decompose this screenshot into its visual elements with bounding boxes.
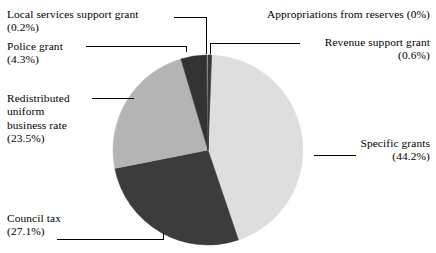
slice-label-percent: (44.2%) bbox=[360, 150, 430, 163]
slice-label-text: Council tax bbox=[7, 212, 61, 225]
slice-label-percent: (0.6%) bbox=[325, 49, 430, 62]
slice-label-local-services-support-grant: Local services support grant (0.2%) bbox=[7, 8, 139, 35]
slice-label-percent: (27.1%) bbox=[7, 225, 61, 238]
leader-line-council-tax bbox=[57, 233, 163, 239]
slice-label-text: Police grant bbox=[7, 40, 63, 53]
slice-label-council-tax: Council tax (27.1%) bbox=[7, 212, 61, 239]
slice-label-police-grant: Police grant (4.3%) bbox=[7, 40, 63, 67]
leader-line-local-services-support-grant bbox=[174, 17, 206, 54]
slice-label-percent: (4.3%) bbox=[7, 53, 63, 66]
leader-line-revenue-support-grant bbox=[210, 43, 300, 54]
slice-label-text: Revenue support grant bbox=[325, 36, 430, 49]
slice-label-text: business rate bbox=[7, 119, 70, 132]
slice-label-text: Redistributed bbox=[7, 92, 70, 105]
pie-chart-figure: Local services support grant (0.2%) Poli… bbox=[0, 0, 436, 253]
slice-label-percent: (23.5%) bbox=[7, 132, 70, 145]
slice-label-redistributed-uniform-business-rate: Redistributed uniform business rate (23.… bbox=[7, 92, 70, 146]
slice-label-specific-grants: Specific grants (44.2%) bbox=[360, 137, 430, 164]
slice-label-text: Specific grants bbox=[360, 137, 430, 150]
slice-label-revenue-support-grant: Revenue support grant (0.6%) bbox=[325, 36, 430, 63]
slice-label-appropriations-from-reserves: Appropriations from reserves (0%) bbox=[267, 8, 430, 21]
slice-label-text: Local services support grant bbox=[7, 8, 139, 21]
slice-label-text: uniform bbox=[7, 105, 70, 118]
slice-label-text: Appropriations from reserves (0%) bbox=[267, 8, 430, 21]
pie-slices bbox=[113, 55, 303, 245]
leader-line-police-grant bbox=[86, 46, 186, 52]
slice-label-percent: (0.2%) bbox=[7, 21, 139, 34]
